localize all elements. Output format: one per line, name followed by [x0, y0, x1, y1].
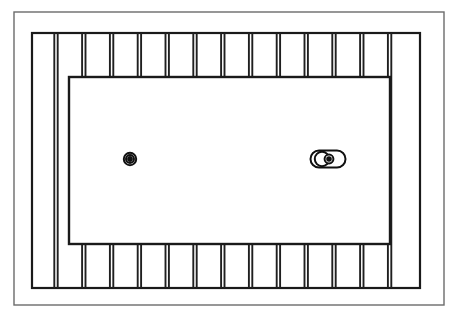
technical-drawing-canvas	[0, 0, 459, 319]
concentric-circle-boss-center-dot	[128, 157, 132, 161]
drawing-svg	[0, 0, 459, 319]
oblong-slot-with-bosses-center-dot	[327, 157, 331, 161]
